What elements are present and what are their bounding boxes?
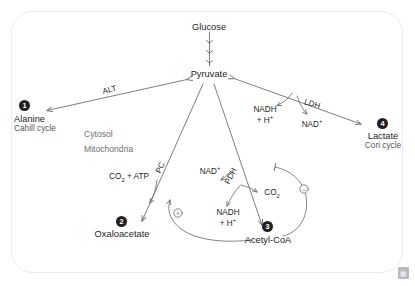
badge-3: 3 <box>262 221 273 232</box>
cofactor-ldh-nadh: NADH <box>253 105 276 114</box>
cofactor-pc-co2-text: CO <box>109 172 121 181</box>
metabolite-pyruvate: Pyruvate <box>191 69 228 79</box>
cofactor-pdh-proton-charge: + <box>233 217 236 223</box>
cofactor-pdh-nad-charge: + <box>217 165 220 171</box>
cofactor-pdh-nad-text: NAD <box>200 167 217 176</box>
cofactor-ldh-nad-charge: + <box>319 118 322 124</box>
metabolite-oxaloacetate: Oxaloacetate <box>95 229 150 239</box>
cofactor-pdh-co2-sub: 2 <box>277 193 280 199</box>
cofactor-ldh-nad-text: NAD <box>302 120 319 129</box>
cofactor-ldh-proton-text: + H <box>257 116 270 125</box>
badge-4: 4 <box>377 118 388 129</box>
metabolite-acetyl-coa: Acetyl-CoA <box>245 235 292 245</box>
metabolite-glucose: Glucose <box>192 22 226 32</box>
badge-1: 1 <box>19 100 30 111</box>
compartment-mitochondria: Mitochondria <box>84 145 133 155</box>
cofactor-pdh-nadh: NADH <box>216 208 239 217</box>
cofactor-pdh-proton-text: + H <box>220 219 233 228</box>
cofactor-pdh-co2: CO2 <box>264 188 280 197</box>
watermark-glyph: ▦ <box>400 270 407 277</box>
source-watermark-icon: ▦ <box>398 267 409 279</box>
lactate-subcaption: Cori cycle <box>365 141 401 150</box>
cofactor-pdh-proton: + H+ <box>220 219 236 228</box>
diagram-canvas: + – Glucose Pyruvate 1 Alanine Cahill cy… <box>0 0 415 286</box>
badge-2: 2 <box>116 216 127 227</box>
cofactor-pc-atp-text: + ATP <box>125 172 149 181</box>
cofactor-pdh-co2-text: CO <box>264 188 276 197</box>
cofactor-ldh-nad: NAD+ <box>302 120 323 129</box>
cofactor-ldh-proton: + H+ <box>257 116 273 125</box>
svg-text:+: + <box>176 210 180 217</box>
cofactor-pc-substrate: CO2 + ATP <box>109 172 149 181</box>
cofactor-ldh-proton-charge: + <box>270 114 273 120</box>
cofactor-pdh-nad: NAD+ <box>200 167 221 176</box>
alanine-subcaption: Cahill cycle <box>14 124 56 133</box>
pathway-arrows: + – <box>0 0 415 286</box>
compartment-cytosol: Cytosol <box>84 130 113 140</box>
